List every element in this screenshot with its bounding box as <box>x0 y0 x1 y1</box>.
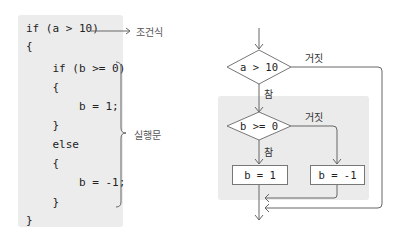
false-branch-box: b = -1 <box>310 165 365 185</box>
inner-true-label: 참 <box>264 144 273 159</box>
true-branch-box: b = 1 <box>232 165 288 185</box>
outer-false-label: 거짓 <box>305 50 323 65</box>
inner-condition-text: b >= 0 <box>240 120 278 132</box>
connector-lines <box>0 0 402 235</box>
inner-false-label: 거짓 <box>305 109 323 124</box>
outer-true-label: 참 <box>264 86 273 101</box>
outer-condition-text: a > 10 <box>240 61 278 73</box>
